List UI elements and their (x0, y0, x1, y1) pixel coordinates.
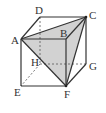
label-a: A (11, 34, 19, 46)
label-b: B (60, 27, 67, 39)
label-f: F (64, 88, 70, 100)
label-h: H (31, 56, 39, 68)
label-d: D (35, 4, 43, 16)
vertex-f-dot (65, 85, 68, 88)
vertex-c-dot (85, 16, 88, 19)
label-c: C (89, 9, 96, 21)
label-g: G (89, 60, 97, 72)
label-e: E (14, 86, 21, 98)
cube-diagram: D C A B H G E F (0, 0, 106, 113)
